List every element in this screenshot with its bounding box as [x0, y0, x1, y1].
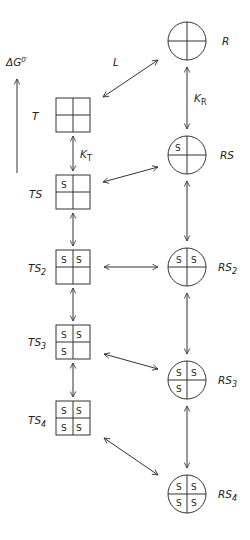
state-label-rs2: RS2	[218, 261, 237, 276]
site-s: S	[61, 406, 67, 416]
l-label: L	[113, 56, 119, 68]
state-rs3: S S S RS3	[168, 361, 237, 399]
state-label-rs4: RS4	[218, 488, 237, 503]
state-rs: S RS	[168, 136, 234, 174]
double-arrow-icon	[104, 354, 158, 369]
site-s: S	[191, 255, 197, 265]
mwc-model-diagram: ΔG0′ T S TS S S TS2	[0, 0, 250, 540]
state-label-ts: TS	[29, 188, 42, 200]
site-s: S	[61, 255, 67, 265]
double-arrow-icon	[103, 60, 158, 97]
r-state-column: R S RS S S RS2 S S S RS3	[168, 22, 237, 513]
site-s: S	[176, 368, 182, 378]
state-label-rs3: RS3	[218, 374, 237, 389]
state-label-ts2: TS2	[28, 262, 46, 277]
kr-label: KR	[194, 92, 207, 107]
site-s: S	[61, 423, 67, 433]
state-label-t: T	[32, 110, 40, 122]
state-ts2: S S TS2	[28, 250, 90, 284]
site-s: S	[191, 368, 197, 378]
site-s: S	[61, 347, 67, 357]
site-s: S	[176, 498, 182, 508]
state-ts3: S S S TS3	[28, 325, 90, 359]
state-label-ts4: TS4	[28, 414, 46, 429]
state-ts4: S S S S TS4	[28, 401, 90, 435]
double-arrow-icon	[104, 438, 158, 475]
state-rs4: S S S S RS4	[168, 475, 237, 513]
state-r: R	[168, 22, 229, 60]
state-label-r: R	[222, 35, 229, 47]
site-s: S	[191, 482, 197, 492]
state-rs2: S S RS2	[168, 248, 237, 286]
state-label-rs: RS	[220, 149, 234, 161]
site-s: S	[176, 384, 182, 394]
state-label-ts3: TS3	[28, 336, 46, 351]
site-s: S	[176, 482, 182, 492]
site-s: S	[76, 330, 82, 340]
tr-equilibria: L	[103, 56, 158, 475]
state-ts: S TS	[29, 175, 90, 209]
kt-label: KT	[80, 148, 92, 163]
site-s: S	[76, 406, 82, 416]
free-energy-label: ΔG0′	[5, 56, 28, 68]
site-s: S	[175, 143, 181, 153]
site-s: S	[191, 498, 197, 508]
site-s: S	[76, 423, 82, 433]
free-energy-axis: ΔG0′	[5, 56, 28, 173]
double-arrow-icon	[103, 167, 158, 182]
site-s: S	[61, 330, 67, 340]
site-s: S	[61, 180, 67, 190]
site-s: S	[176, 255, 182, 265]
site-s: S	[76, 255, 82, 265]
state-t: T	[32, 98, 90, 132]
